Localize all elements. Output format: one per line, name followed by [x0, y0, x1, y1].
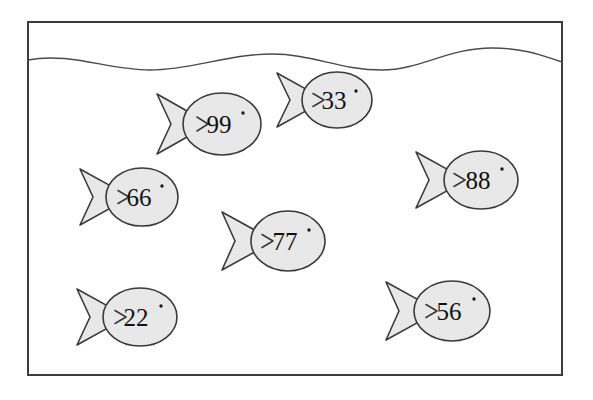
fish-77-number-label: 77: [273, 228, 298, 255]
fish-22-eye-icon: [159, 304, 162, 307]
fish-tank-canvas: 99336688772256: [0, 0, 593, 400]
fish-88-eye-icon: [500, 167, 503, 170]
fish-99-eye-icon: [241, 111, 244, 114]
fish-77-eye-icon: [307, 228, 310, 231]
fish-99-number-label: 99: [207, 111, 232, 138]
fish-33[interactable]: 33: [277, 72, 372, 128]
fish-66[interactable]: 66: [80, 168, 178, 226]
fish-99[interactable]: 99: [157, 93, 261, 155]
fish-66-number-label: 66: [127, 184, 152, 211]
fish-56-number-label: 56: [437, 298, 462, 325]
fish-56-eye-icon: [472, 297, 475, 300]
fish-77[interactable]: 77: [222, 211, 325, 271]
fish-66-eye-icon: [160, 184, 163, 187]
fish-tank-scene: 99336688772256: [0, 0, 593, 400]
fish-88-number-label: 88: [466, 167, 491, 194]
fish-22-number-label: 22: [124, 304, 149, 331]
fish-33-number-label: 33: [322, 87, 347, 114]
fish-22[interactable]: 22: [77, 288, 177, 346]
fish-56[interactable]: 56: [386, 281, 490, 341]
fish-88[interactable]: 88: [416, 151, 518, 209]
fish-33-eye-icon: [354, 89, 357, 92]
